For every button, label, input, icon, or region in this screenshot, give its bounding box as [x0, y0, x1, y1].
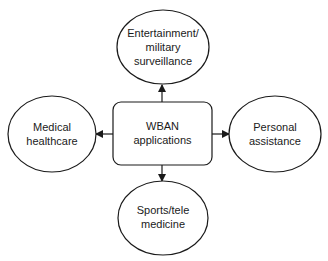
center-label-line1: WBAN: [146, 120, 179, 132]
center-label-line2: applications: [133, 134, 192, 146]
node-left-line1: Medical: [33, 121, 71, 133]
node-personal: Personal assistance: [229, 96, 321, 172]
center-node: WBAN applications: [113, 102, 212, 165]
wban-diagram: WBAN applications Entertainment/ militar…: [0, 0, 328, 261]
node-medical: Medical healthcare: [8, 96, 96, 172]
node-bottom-line2: medicine: [141, 218, 185, 230]
node-right-line1: Personal: [253, 121, 296, 133]
node-left-line2: healthcare: [26, 135, 77, 147]
node-bottom-line1: Sports/tele: [137, 204, 190, 216]
node-top-line1: Entertainment/: [127, 27, 199, 39]
node-entertainment: Entertainment/ military surveillance: [117, 10, 209, 84]
node-sports: Sports/tele medicine: [118, 181, 208, 255]
node-top-line2: military: [146, 41, 181, 53]
node-right-line2: assistance: [249, 135, 301, 147]
node-top-line3: surveillance: [134, 55, 192, 67]
